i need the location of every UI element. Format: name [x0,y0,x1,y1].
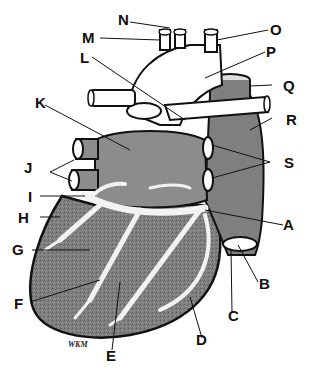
label-k: K [35,95,46,110]
label-h: H [18,210,29,225]
label-n: N [118,12,129,27]
label-g: G [12,242,24,257]
label-r: R [286,112,297,127]
label-i: I [28,189,32,204]
label-p: P [266,44,276,59]
artist-signature: WKM [68,340,88,349]
label-a: A [283,217,294,232]
heart-diagram [0,0,309,371]
label-o: O [270,22,282,37]
label-m: M [82,30,95,45]
label-d: D [196,332,207,347]
label-s: S [284,155,294,170]
label-q: Q [283,78,295,93]
label-c: C [228,308,239,323]
label-b: B [259,276,270,291]
label-e: E [106,348,116,363]
label-f: F [14,296,23,311]
label-j: J [24,160,32,175]
label-l: L [80,50,89,65]
